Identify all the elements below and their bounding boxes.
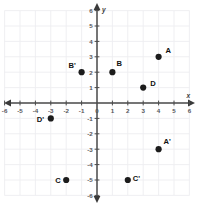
x-axis-tick-label: -5 (17, 107, 23, 114)
data-point-dot (156, 146, 162, 152)
y-axis-tick-label: -6 (87, 192, 93, 199)
x-axis-tick-label: 3 (141, 107, 145, 114)
data-point-label: C (55, 176, 61, 185)
y-axis-tick-label: -4 (87, 161, 93, 168)
data-point-dot (63, 177, 69, 183)
coordinate-plane-figure: -6-5-4-3-2-10123456-6-5-4-3-2-1123456 xy… (0, 0, 199, 205)
y-axis-arrow-up-icon (94, 3, 101, 10)
data-point-label: B' (69, 61, 76, 70)
y-axis-arrow-down-icon (94, 196, 101, 203)
coordinate-plane-svg: -6-5-4-3-2-10123456-6-5-4-3-2-1123456 xy… (0, 0, 199, 205)
y-axis-tick-label: -2 (87, 130, 93, 137)
axis-names: xy (101, 6, 190, 99)
data-point-dot (109, 69, 115, 75)
x-axis-tick-label: -2 (63, 107, 69, 114)
y-axis-tick-label: -5 (87, 176, 93, 183)
data-point-label: D (150, 79, 156, 88)
data-point-dot (140, 85, 146, 91)
y-axis-tick-label: 3 (89, 53, 93, 60)
x-axis-label: x (185, 92, 190, 99)
data-point-label: A (166, 46, 172, 55)
data-point-labels: ABDB'D'A'CC' (37, 46, 172, 185)
axes (4, 3, 195, 203)
y-axis-tick-label: 1 (89, 84, 93, 91)
y-axis-tick-label: -1 (87, 115, 93, 122)
data-point-label: D' (37, 115, 44, 124)
x-axis-tick-label: 4 (157, 107, 161, 114)
x-axis-tick-label: 2 (126, 107, 130, 114)
data-point-dot (48, 115, 54, 121)
x-axis-tick-label: 0 (95, 107, 99, 114)
x-axis-tick-label: -1 (79, 107, 85, 114)
x-axis-tick-label: 6 (188, 107, 192, 114)
x-axis-tick-label: -6 (2, 107, 8, 114)
y-axis-tick-label: 4 (89, 38, 93, 45)
y-axis-tick-label: -3 (87, 146, 93, 153)
data-point-dot (125, 177, 131, 183)
y-axis-label: y (101, 6, 106, 14)
y-axis-tick-label: 5 (89, 22, 93, 29)
x-axis-tick-label: -3 (48, 107, 54, 114)
x-axis-tick-label: 5 (172, 107, 176, 114)
x-axis-tick-label: -4 (33, 107, 39, 114)
data-point-label: B (116, 59, 122, 68)
data-point-label: C' (133, 174, 140, 183)
data-point-dot (156, 54, 162, 60)
data-point-dot (79, 69, 85, 75)
data-point-label: A' (164, 137, 171, 146)
x-axis-tick-label: 1 (111, 107, 115, 114)
y-axis-tick-label: 2 (89, 69, 93, 76)
y-axis-tick-label: 6 (89, 7, 93, 14)
